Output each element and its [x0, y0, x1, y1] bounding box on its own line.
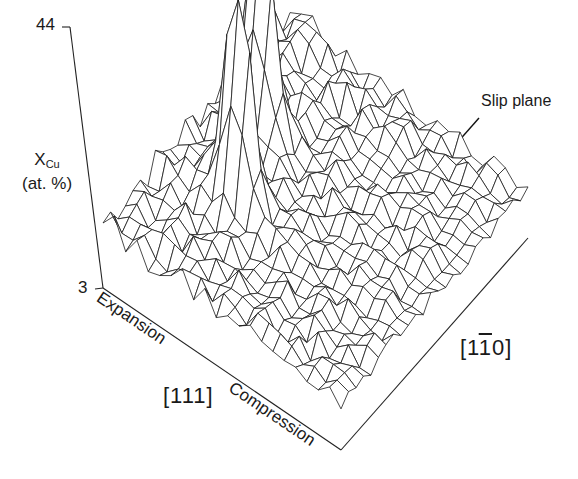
z-axis-line — [70, 27, 103, 288]
surface-wireframe — [0, 0, 578, 479]
miller-110-prefix: [1 — [460, 335, 479, 360]
miller-110-suffix: 0] — [492, 335, 512, 360]
z-label-unit: (at. %) — [22, 174, 72, 194]
miller-index-111: [111] — [163, 383, 214, 409]
z-tick-label-bottom: 3 — [78, 278, 87, 298]
miller-index-1bar10: [110] — [460, 335, 512, 361]
slip-plane-annotation: Slip plane — [481, 92, 551, 110]
surface-plot-figure: 44 3 XCu (at. %) Slip plane Expansion Co… — [0, 0, 578, 479]
z-label-sub: Cu — [46, 158, 60, 170]
z-axis-label: XCu (at. %) — [22, 150, 72, 194]
miller-110-bar: 1 — [479, 335, 492, 360]
z-label-main: X — [34, 150, 45, 169]
z-tick-label-top: 44 — [36, 15, 55, 35]
